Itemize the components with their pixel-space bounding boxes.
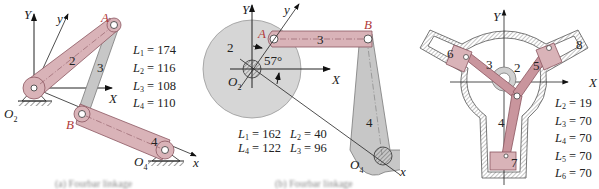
joint-B [79,111,86,118]
param-L3: L3 = 96 [290,142,327,156]
point-label-A: A [258,27,266,40]
link-label-4: 4 [366,116,373,129]
axis-label-Y: Y [24,8,31,21]
joint-B [364,35,372,43]
figure-a-fourbar-linkage: Y y X x A B O2 O4 2 3 4 L1 = 174 L2 = 11… [0,0,200,189]
param-L4: L4 = 70 [555,132,592,146]
axis-label-y: y [57,12,63,25]
link-label-8: 8 [576,38,583,51]
fourbar-linkage-a-drawing [0,0,200,189]
point-label-A: A [101,11,109,24]
crank-pin [514,93,520,99]
link-label-3: 3 [317,33,324,46]
point-label-B: B [66,118,74,131]
figure-b-fourbar-linkage: Y y X x A B O2 O4 2 3 4 57° L1 = 162 L2 … [200,0,400,189]
param-L1: L1 = 162 [238,128,281,142]
caption-b: (b) Fourbar linkage [275,178,353,189]
param-L3: L3 = 70 [555,115,592,129]
param-L2: L2 = 19 [555,97,592,111]
axis-label-x: x [193,156,199,169]
axis-label-X: X [109,92,117,105]
axis-label-X: X [332,73,340,86]
param-L1: L1 = 174 [133,44,176,58]
pivot-O2 [243,60,261,78]
point-label-O2: O2 [228,75,241,92]
link-label-3: 3 [97,61,104,74]
param-L2: L2 = 40 [290,128,327,142]
link-label-6: 6 [447,47,454,60]
axis-label-y: y [284,3,290,16]
link-label-3: 3 [486,58,493,71]
link-label-4: 4 [151,135,158,148]
param-L4: L4 = 122 [238,142,281,156]
axis-label-Y: Y [242,3,249,16]
point-label-O2: O2 [4,107,17,124]
point-label-O4: O4 [134,155,147,172]
caption-a: (a) Fourbar linkage [55,178,132,189]
link-label-2: 2 [69,54,76,67]
point-label-B: B [364,18,372,31]
joint-A [111,22,118,29]
link-label-2: 2 [514,61,521,74]
link-label-5: 5 [533,59,540,72]
pivot-O2 [31,85,37,91]
pivot-O4 [374,147,392,165]
crank-angle-label: 57° [264,54,282,67]
pivot-O4 [162,147,169,154]
param-L4: L4 = 110 [133,97,176,111]
param-L3: L3 = 108 [133,80,176,94]
param-L6: L6 = 70 [555,167,592,181]
param-L5: L5 = 70 [555,150,592,164]
link-label-7: 7 [511,156,518,169]
link-label-4: 4 [498,116,505,129]
axis-label-Y: Y [493,10,500,23]
param-L2: L2 = 116 [133,62,176,76]
figure-c-radial-compressor: Y X 2 3 4 5 6 7 8 L2 = 19 L3 = 70 L4 = 7… [400,0,599,189]
axis-label-X: X [589,76,597,89]
link-label-2: 2 [227,41,234,54]
point-label-O4: O4 [350,158,363,175]
